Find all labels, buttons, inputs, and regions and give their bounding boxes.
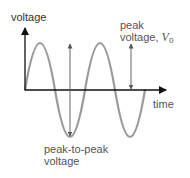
- peak-voltage-label-line2: voltage, V0: [120, 31, 173, 47]
- peak-to-peak-label-line2: voltage: [44, 155, 79, 167]
- peak-voltage-subscript: 0: [169, 36, 173, 45]
- x-axis-label: time: [153, 98, 174, 110]
- peak-to-peak-label-line1: peak-to-peak: [44, 143, 108, 155]
- sine-wave-diagram: voltage time peak voltage, V0 peak-to-pe…: [0, 0, 190, 178]
- peak-voltage-label-line1: peak: [120, 19, 144, 31]
- y-axis-label: voltage: [11, 11, 46, 23]
- peak-voltage-symbol: V: [162, 30, 169, 44]
- peak-voltage-label-text: voltage,: [120, 31, 162, 43]
